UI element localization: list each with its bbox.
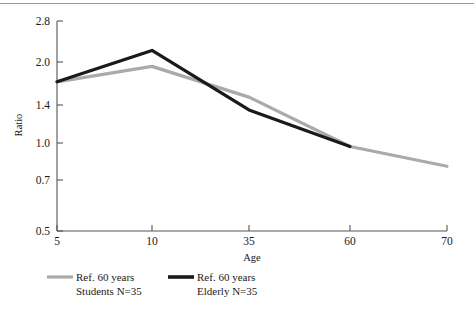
chart-figure: 2.8 2.0 1.4 1.0 0.7 0.5 5 10 35 60 70 Ag… <box>0 0 474 311</box>
y-tick-label-2: 1.4 <box>36 99 51 111</box>
line-chart-svg: 2.8 2.0 1.4 1.0 0.7 0.5 5 10 35 60 70 Ag… <box>0 0 474 311</box>
series-line-students <box>57 66 447 166</box>
y-tick-label-0: 2.8 <box>36 15 51 27</box>
legend-item-students[interactable]: Ref. 60 years Students N=35 <box>47 271 142 297</box>
y-tick-label-3: 1.0 <box>36 137 51 149</box>
x-axis-title: Age <box>243 252 261 263</box>
x-tick-label-1: 10 <box>146 235 158 247</box>
x-tick-label-3: 60 <box>344 235 356 247</box>
y-tick-label-5: 0.5 <box>36 225 51 237</box>
x-tick-label-2: 35 <box>243 235 255 247</box>
x-tick-label-4: 70 <box>441 235 453 247</box>
series-line-elderly <box>57 50 350 146</box>
y-tick-label-4: 0.7 <box>36 174 51 186</box>
axis-lines <box>57 21 447 231</box>
y-tick-label-1: 2.0 <box>36 56 51 68</box>
legend-label-students-line2: Students N=35 <box>76 285 142 297</box>
chart-legend: Ref. 60 years Students N=35 Ref. 60 year… <box>47 271 258 297</box>
legend-label-students-line1: Ref. 60 years <box>76 271 134 283</box>
x-tick-label-0: 5 <box>54 235 60 247</box>
legend-label-elderly-line2: Elderly N=35 <box>197 285 258 297</box>
legend-item-elderly[interactable]: Ref. 60 years Elderly N=35 <box>168 271 258 297</box>
y-axis-title: Ratio <box>13 114 24 137</box>
legend-label-elderly-line1: Ref. 60 years <box>197 271 255 283</box>
y-axis-ticks <box>57 21 63 231</box>
x-axis-tick-labels: 5 10 35 60 70 <box>54 235 453 247</box>
x-axis-ticks <box>57 225 447 231</box>
y-axis-tick-labels: 2.8 2.0 1.4 1.0 0.7 0.5 <box>36 15 51 237</box>
